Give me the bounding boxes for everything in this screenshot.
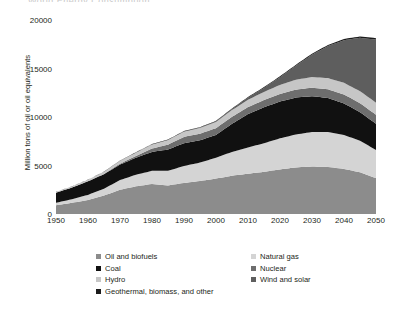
chart-legend: Oil and biofuelsCoalHydroGeothermal, bio… bbox=[96, 253, 396, 305]
legend-label: Coal bbox=[105, 265, 121, 273]
legend-item: Nuclear bbox=[251, 265, 286, 273]
legend-label: Wind and solar bbox=[260, 276, 311, 284]
legend-swatch-icon bbox=[251, 266, 256, 271]
legend-label: Hydro bbox=[105, 276, 125, 284]
legend-label: Oil and biofuels bbox=[105, 253, 157, 261]
legend-swatch-icon bbox=[96, 254, 101, 259]
legend-label: Geothermal, biomass, and other bbox=[105, 288, 213, 296]
x-tick-label: 2030 bbox=[303, 216, 321, 225]
x-tick-label: 2050 bbox=[367, 216, 385, 225]
x-axis-ticks: 1950196019701980199020002010202020302040… bbox=[56, 216, 386, 234]
chart-figure: World Energy Consumption Million tons of… bbox=[0, 0, 401, 317]
x-tick-label: 1970 bbox=[111, 216, 129, 225]
legend-label: Nuclear bbox=[260, 265, 286, 273]
legend-label: Natural gas bbox=[260, 253, 299, 261]
legend-item: Wind and solar bbox=[251, 276, 311, 284]
legend-swatch-icon bbox=[251, 254, 256, 259]
x-tick-label: 1960 bbox=[79, 216, 97, 225]
legend-swatch-icon bbox=[96, 289, 101, 294]
x-tick-label: 1950 bbox=[47, 216, 65, 225]
legend-item: Hydro bbox=[96, 276, 125, 284]
x-tick-label: 1980 bbox=[143, 216, 161, 225]
legend-item: Coal bbox=[96, 265, 121, 273]
x-tick-label: 1990 bbox=[175, 216, 193, 225]
x-tick-label: 2010 bbox=[239, 216, 257, 225]
legend-item: Geothermal, biomass, and other bbox=[96, 288, 213, 296]
x-tick-label: 2020 bbox=[271, 216, 289, 225]
legend-swatch-icon bbox=[251, 277, 256, 282]
x-tick-label: 2040 bbox=[335, 216, 353, 225]
legend-item: Oil and biofuels bbox=[96, 253, 157, 261]
legend-item: Natural gas bbox=[251, 253, 299, 261]
legend-swatch-icon bbox=[96, 277, 101, 282]
legend-swatch-icon bbox=[96, 266, 101, 271]
x-tick-label: 2000 bbox=[207, 216, 225, 225]
